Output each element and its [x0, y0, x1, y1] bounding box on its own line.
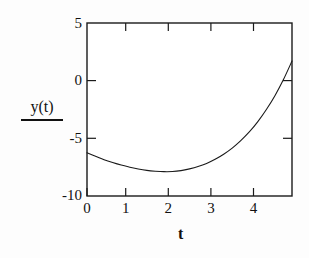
ytick-label-0: 0 — [52, 73, 82, 88]
plot-area — [0, 0, 309, 258]
xtick-label-1: 1 — [116, 201, 136, 216]
xtick-label-3: 3 — [201, 201, 221, 216]
y-axis-title-underline — [21, 119, 63, 121]
plot-frame — [87, 23, 292, 196]
y-axis-title: y(t) — [14, 98, 70, 121]
x-axis-title: t — [178, 226, 183, 242]
xtick-label-0: 0 — [77, 201, 97, 216]
xtick-label-2: 2 — [158, 201, 178, 216]
ytick-label-5: 5 — [52, 16, 82, 31]
ytick-label-minus-10: -10 — [36, 188, 82, 203]
ytick-label-minus-5: -5 — [44, 131, 82, 146]
figure-canvas: 5 0 -5 -10 0 1 2 3 4 y(t) t — [0, 0, 309, 258]
xtick-label-4: 4 — [244, 201, 264, 216]
y-axis-title-text: y(t) — [14, 98, 70, 116]
